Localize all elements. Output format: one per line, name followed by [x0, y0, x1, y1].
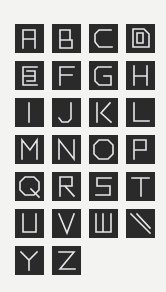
letter-tile-l: L — [126, 98, 155, 127]
letter-tile-t: T — [126, 172, 155, 201]
letter-tile-k: K — [89, 98, 118, 127]
letter-tile-f: F — [52, 61, 81, 90]
letter-tile-b: B — [52, 24, 81, 53]
letter-tile-w: W — [89, 209, 118, 238]
letter-tile-e: E — [15, 61, 44, 90]
letter-tile-h: H — [126, 61, 155, 90]
letter-tile-y: Y — [15, 246, 44, 275]
letter-tile-r: R — [52, 172, 81, 201]
letter-tile-m: M — [15, 135, 44, 164]
letter-tile-q: Q — [15, 172, 44, 201]
letter-tile-z: Z — [52, 246, 81, 275]
letter-tile-c: C — [89, 24, 118, 53]
letter-tile-j: J — [52, 98, 81, 127]
letter-tile-grid: A B C D E F G H I J K L — [15, 24, 155, 275]
letter-tile-o: O — [89, 135, 118, 164]
letter-tile-x: X — [126, 209, 155, 238]
letter-tile-i: I — [15, 98, 44, 127]
letter-tile-d: D — [126, 24, 155, 53]
letter-tile-a: A — [15, 24, 44, 53]
letter-tile-g: G — [89, 61, 118, 90]
letter-tile-s: S — [89, 172, 118, 201]
letter-tile-p: P — [126, 135, 155, 164]
letter-tile-u: U — [15, 209, 44, 238]
letter-tile-n: N — [52, 135, 81, 164]
letter-tile-v: V — [52, 209, 81, 238]
